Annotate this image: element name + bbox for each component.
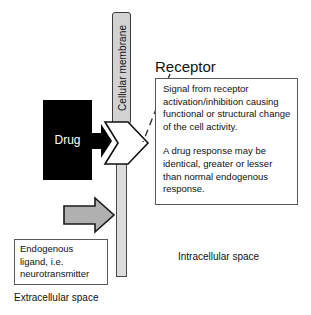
endogenous-ligand-text: Endogenous ligand, i.e. neurotransmitter [20,243,103,281]
drug-label: Drug [43,133,92,147]
gray-right-arrow-icon [62,196,116,234]
cellular-membrane-label: Cellular membrane [116,25,127,111]
receptor-chevron-icon [102,120,150,166]
drug-receptor-diagram: Cellular membrane Drug Receptor Signal f… [0,0,311,315]
receptor-info-box: Signal from receptor activation/inhibiti… [155,78,298,205]
receptor-title: Receptor [155,58,216,75]
info-paragraph-signal: Signal from receptor activation/inhibiti… [163,83,292,133]
cellular-membrane-block: Cellular membrane [112,12,131,124]
info-paragraph-response: A drug response may be identical, greate… [163,145,292,195]
extracellular-space-label: Extracellular space [14,292,98,303]
endogenous-ligand-box: Endogenous ligand, i.e. neurotransmitter [14,239,108,285]
membrane-lower-segment [116,158,127,277]
intracellular-space-label: Intracellular space [178,251,259,262]
drug-block: Drug [43,100,92,180]
